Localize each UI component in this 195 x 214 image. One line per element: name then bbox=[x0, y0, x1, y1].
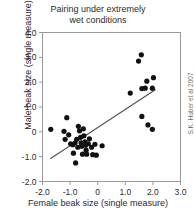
y-tick-label: 1.0 bbox=[25, 102, 37, 112]
data-point bbox=[66, 132, 71, 137]
data-point bbox=[63, 137, 68, 142]
x-tick-label: 0 bbox=[95, 187, 100, 197]
data-point bbox=[136, 58, 141, 63]
data-point bbox=[144, 79, 149, 84]
data-point bbox=[48, 127, 53, 132]
data-point bbox=[139, 52, 144, 57]
y-tick-label: 3.0 bbox=[25, 52, 37, 62]
data-point bbox=[139, 114, 144, 119]
plot-frame bbox=[43, 33, 181, 182]
data-point bbox=[64, 115, 69, 120]
x-tick-label: -2.0 bbox=[35, 187, 50, 197]
x-tick-label: -1.0 bbox=[63, 187, 78, 197]
data-point bbox=[92, 142, 97, 147]
data-point bbox=[61, 129, 66, 134]
data-point bbox=[71, 151, 76, 156]
tick-labels-group: -2.0-1.001.02.03.04.0-2.0-1.001.02.03.0 bbox=[22, 28, 187, 197]
axes-group bbox=[39, 33, 181, 186]
data-point bbox=[145, 122, 150, 127]
y-tick-label: -2.0 bbox=[22, 177, 37, 187]
data-point bbox=[100, 143, 105, 148]
data-point bbox=[143, 86, 148, 91]
x-tick-label: 1.0 bbox=[119, 187, 131, 197]
data-point bbox=[81, 126, 86, 131]
data-point bbox=[150, 86, 155, 91]
y-tick-label: 4.0 bbox=[25, 28, 37, 38]
scatter-plot-figure: Pairing under extremely wet conditions M… bbox=[0, 0, 195, 214]
trendline-segment bbox=[50, 90, 155, 159]
data-point bbox=[87, 136, 92, 141]
data-point bbox=[151, 75, 156, 80]
data-point bbox=[81, 133, 86, 138]
y-tick-label: -1.0 bbox=[22, 152, 37, 162]
data-point bbox=[76, 124, 81, 129]
y-tick-label: 0 bbox=[32, 127, 37, 137]
x-tick-label: 2.0 bbox=[147, 187, 159, 197]
data-point bbox=[73, 160, 78, 165]
data-point bbox=[94, 153, 99, 158]
data-point bbox=[128, 90, 133, 95]
plot-area: -2.0-1.001.02.03.04.0-2.0-1.001.02.03.0 bbox=[0, 0, 195, 214]
x-tick-label: 3.0 bbox=[175, 187, 187, 197]
y-tick-label: 2.0 bbox=[25, 77, 37, 87]
trendline bbox=[50, 90, 155, 159]
data-point bbox=[150, 127, 155, 132]
data-point bbox=[84, 152, 89, 157]
data-points-group bbox=[48, 52, 156, 165]
